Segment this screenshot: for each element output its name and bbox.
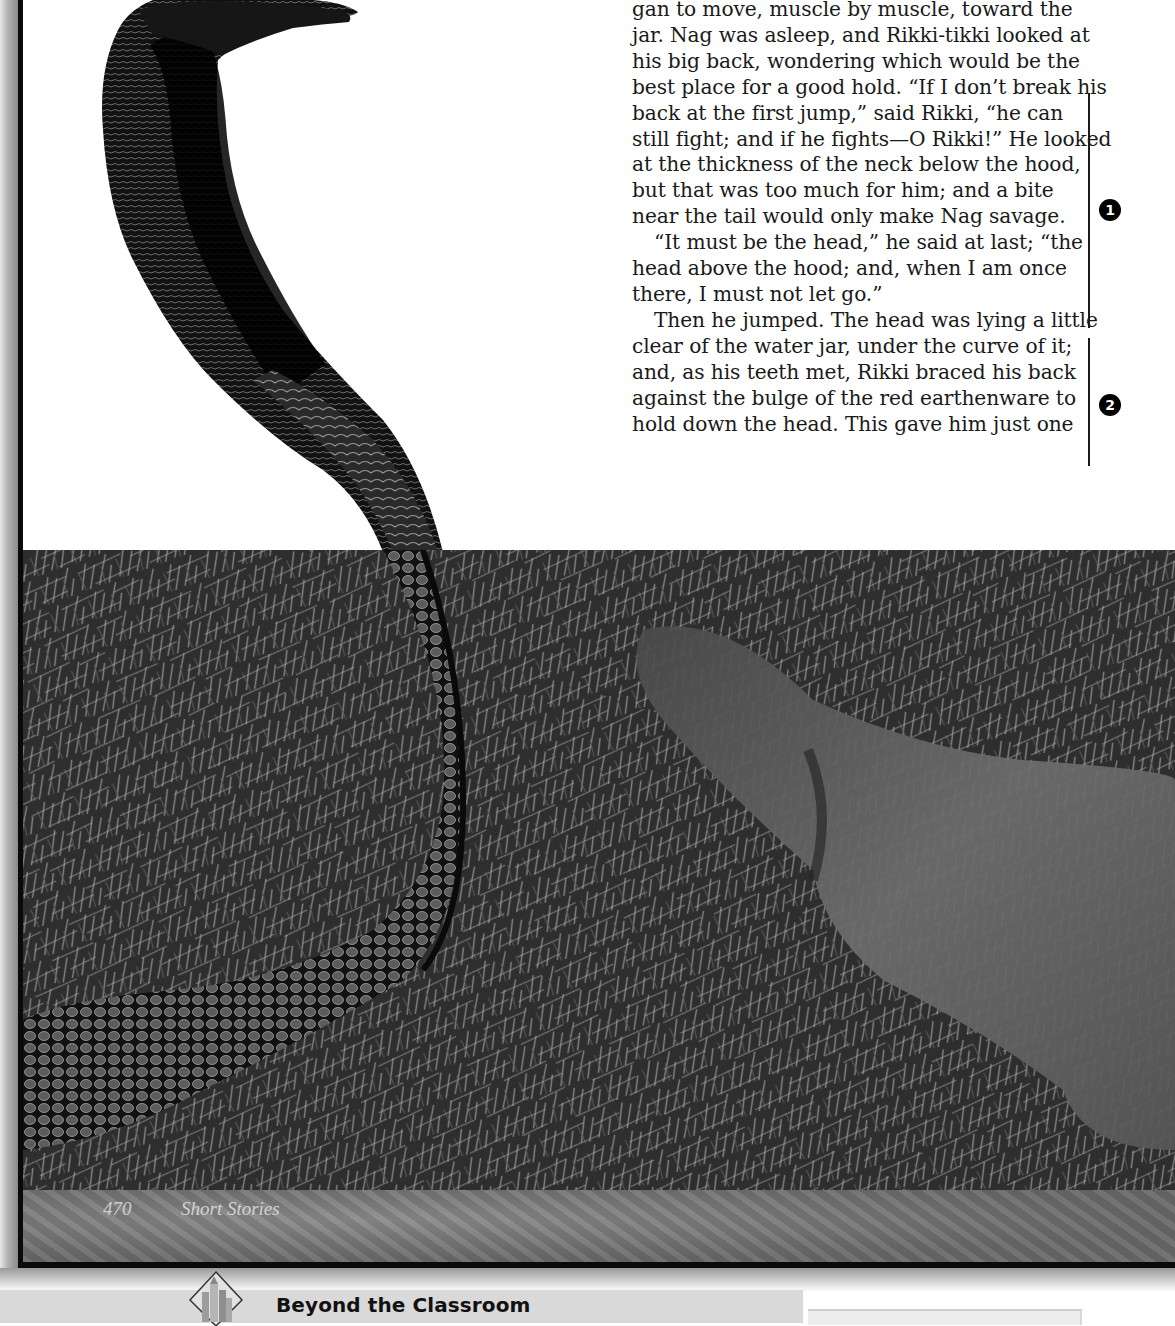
margin-note-2-badge[interactable]: 2 <box>1099 394 1121 416</box>
margin-note-1-badge[interactable]: 1 <box>1099 199 1121 221</box>
section-name: Short Stories <box>181 1198 280 1220</box>
text-page-area: gan to move, muscle by muscle, toward th… <box>23 0 1175 552</box>
cobra-upper-body-image <box>23 0 623 560</box>
page-number: 470 <box>103 1198 132 1220</box>
page-bottom-shadow <box>0 1268 1175 1292</box>
cobra-mongoose-photo <box>23 550 1175 1192</box>
story-paragraph: gan to move, muscle by muscle, toward th… <box>632 0 1112 230</box>
margin-note-rule-2 <box>1088 338 1090 466</box>
castle-diamond-icon <box>188 1270 244 1326</box>
sidebar-box <box>808 1309 1082 1325</box>
page-left-border <box>18 0 23 1268</box>
story-paragraph: Then he jumped. The head was lying a lit… <box>632 308 1112 438</box>
page-edge-shadow <box>0 0 18 1268</box>
page-footer-band: 470 Short Stories <box>23 1190 1175 1262</box>
grass-scene-image <box>23 550 1175 1192</box>
margin-note-rule-1 <box>1088 93 1090 328</box>
story-paragraph: “It must be the head,” he said at last; … <box>632 230 1112 308</box>
beyond-classroom-title: Beyond the Classroom <box>276 1293 530 1317</box>
story-text-column: gan to move, muscle by muscle, toward th… <box>632 0 1112 437</box>
